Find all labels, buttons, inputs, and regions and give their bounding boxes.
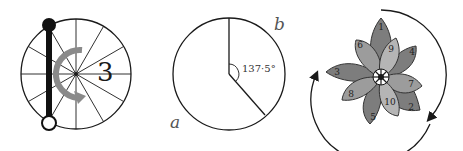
petal-number-2: 2 [408,102,414,112]
petal-rosette-figure: 1 2 3 4 5 6 7 8 9 10 [311,10,446,151]
petal-number-8: 8 [348,89,354,99]
rod-open-end [42,116,56,130]
petal-number-1: 1 [378,22,384,32]
petal-number-10: 10 [384,97,396,107]
angle-label: 137·5° [242,63,276,74]
petal-number-6: 6 [357,40,363,50]
wheel-label: 3 [97,57,114,87]
rod-filled-end [42,18,56,32]
petal-number-4: 4 [409,47,415,57]
diagram-canvas: 3 137·5° b a [0,0,463,151]
spoked-wheel-figure: 3 [21,18,131,130]
petal-number-3: 3 [334,67,340,77]
wheel-hub [74,72,78,76]
petal-number-9: 9 [388,44,394,54]
arc-label-a: a [170,112,180,132]
arc-label-b: b [274,14,285,34]
petal-number-5: 5 [370,112,376,122]
petal-number-7: 7 [408,79,414,89]
divergence-angle-figure: 137·5° b a [170,14,285,132]
